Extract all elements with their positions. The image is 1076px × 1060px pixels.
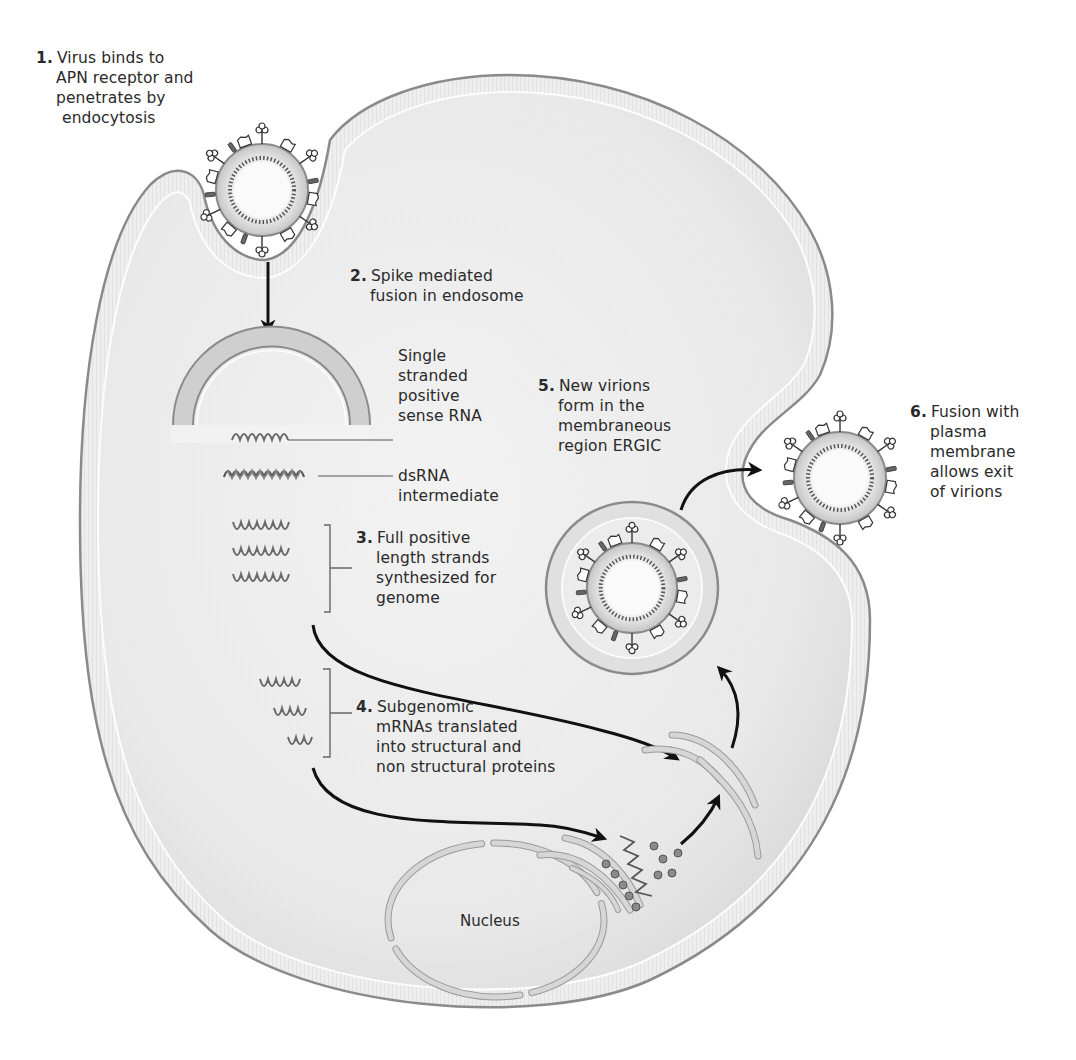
step-6-label: 6.Fusion with plasma membrane allows exi…: [910, 402, 1019, 502]
step-5-label: 5.New virions form in the membraneous re…: [538, 376, 671, 456]
ssrna-label: Single stranded positive sense RNA: [398, 346, 482, 426]
dsrna-label: dsRNA intermediate: [398, 466, 499, 506]
step-2-label: 2.Spike mediated fusion in endosome: [350, 266, 524, 306]
step-1-label: 1.Virus binds to APN receptor and penetr…: [36, 48, 194, 128]
ergic-vesicle: [546, 502, 718, 674]
step-4-label: 4.Subgenomic mRNAs translated into struc…: [356, 697, 555, 777]
nucleus-label: Nucleus: [460, 912, 520, 930]
coronavirus-replication-diagram: [0, 0, 1076, 1060]
step-3-label: 3.Full positive length strands synthesiz…: [356, 528, 496, 608]
